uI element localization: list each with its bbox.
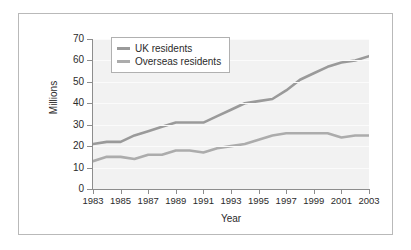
- legend-item: UK residents: [117, 42, 221, 55]
- legend-label: UK residents: [135, 44, 192, 54]
- y-tick-mark: [87, 168, 92, 169]
- x-tick-mark: [121, 190, 122, 194]
- x-tick-mark: [231, 190, 232, 194]
- x-tick-mark: [259, 190, 260, 194]
- y-tick-mark: [87, 60, 92, 61]
- y-axis-label: Millions: [48, 58, 59, 138]
- chart-figure: 010203040506070 198319851987198919911993…: [18, 13, 393, 235]
- y-tick-mark: [87, 39, 92, 40]
- x-tick-mark: [148, 190, 149, 194]
- x-tick-mark: [369, 190, 370, 194]
- chart-legend: UK residentsOverseas residents: [111, 37, 230, 73]
- x-tick-mark: [286, 190, 287, 194]
- y-tick-mark: [87, 189, 92, 190]
- x-tick-mark: [93, 190, 94, 194]
- gridline: [93, 82, 369, 83]
- legend-swatch-icon: [117, 47, 130, 50]
- y-tick-label: 10: [44, 163, 84, 173]
- x-tick-mark: [203, 190, 204, 194]
- gridline: [93, 146, 369, 147]
- legend-swatch-icon: [117, 60, 130, 63]
- gridline: [93, 168, 369, 169]
- y-tick-mark: [87, 125, 92, 126]
- y-tick-mark: [87, 103, 92, 104]
- y-tick-label: 0: [44, 184, 84, 194]
- x-tick-mark: [341, 190, 342, 194]
- y-tick-label: 20: [44, 141, 84, 151]
- series-line: [93, 133, 369, 161]
- x-tick-mark: [314, 190, 315, 194]
- y-tick-mark: [87, 146, 92, 147]
- plot-wrapper: 010203040506070 198319851987198919911993…: [19, 14, 394, 236]
- gridline: [93, 103, 369, 104]
- gridline: [93, 125, 369, 126]
- y-tick-mark: [87, 82, 92, 83]
- x-tick-mark: [176, 190, 177, 194]
- y-tick-label: 70: [44, 34, 84, 44]
- legend-item: Overseas residents: [117, 55, 221, 68]
- x-tick-label: 2003: [352, 196, 386, 206]
- legend-label: Overseas residents: [135, 57, 221, 67]
- x-axis-label: Year: [93, 213, 369, 224]
- y-axis-spine: [92, 39, 93, 190]
